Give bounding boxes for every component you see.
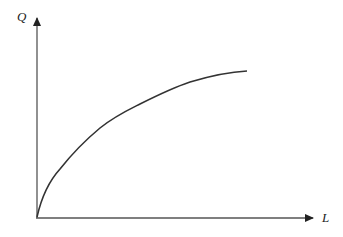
x-axis-label: L — [322, 210, 329, 226]
y-axis-label: Q — [17, 9, 26, 25]
production-curve — [37, 71, 247, 217]
diagram-canvas — [0, 0, 343, 237]
